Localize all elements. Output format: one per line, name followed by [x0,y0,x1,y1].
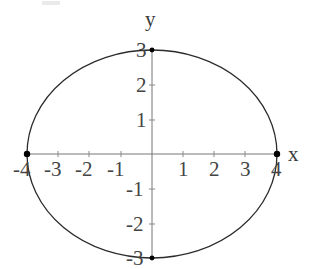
y-tick-label-2: 2 [136,75,147,96]
y-tick-label-minus-1: -1 [126,179,144,200]
x-tick-label-1: 1 [178,159,189,180]
graph-canvas: y x -4 -3 -2 -1 1 2 3 4 3 2 1 -1 -2 -3 [0,0,313,269]
x-tick-label-minus-1: -1 [107,159,125,180]
y-tick-label-minus-2: -2 [126,214,144,235]
x-tick-label-minus-2: -2 [75,159,93,180]
y-tick-label-1: 1 [136,110,147,131]
x-tick-label-minus-3: -3 [44,159,62,180]
y-tick-label-3: 3 [136,40,147,61]
x-tick-label-minus-4: -4 [13,159,31,180]
y-axis-label: y [145,9,156,30]
vertex-point-top [150,48,155,53]
x-axis-label: x [288,144,299,165]
x-tick-label-3: 3 [240,159,251,180]
ellipse-plot [0,0,313,269]
x-tick-label-2: 2 [209,159,220,180]
vertex-point-bottom [150,256,155,261]
x-tick-label-4: 4 [271,159,282,180]
y-tick-label-minus-3: -3 [126,248,144,269]
